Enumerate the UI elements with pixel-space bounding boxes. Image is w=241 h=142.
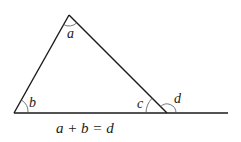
triangle-diagram: a b c d a + b = d [0, 0, 241, 142]
equation-text: a + b = d [56, 120, 114, 136]
angle-arc-c [146, 98, 152, 113]
angle-label-a: a [67, 26, 74, 41]
angle-label-d: d [174, 91, 182, 106]
angle-label-b: b [29, 95, 36, 110]
angle-arc-b [21, 100, 28, 113]
side-left [14, 15, 69, 113]
side-right [69, 15, 167, 113]
angle-label-c: c [137, 96, 144, 111]
